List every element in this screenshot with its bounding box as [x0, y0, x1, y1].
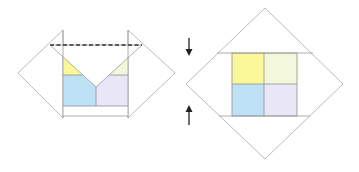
yellow-cell — [232, 53, 264, 84]
right-flap — [128, 30, 175, 118]
blue-cell — [232, 84, 264, 116]
down-arrow-icon — [186, 38, 193, 56]
origami-diagram — [0, 0, 359, 172]
right-figure — [186, 8, 344, 159]
pale-green-cell — [264, 53, 297, 84]
up-arrow-icon — [186, 105, 193, 125]
left-figure — [18, 30, 175, 118]
left-flap — [18, 30, 63, 118]
four-color-square-right — [232, 53, 297, 116]
lavender-cell — [264, 84, 297, 116]
